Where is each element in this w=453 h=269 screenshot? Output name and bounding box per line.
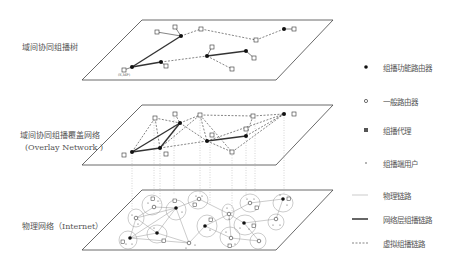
legend-end-user-icon	[365, 162, 367, 164]
physical-layer-label: 物理网络（Internet）	[22, 222, 103, 232]
overlay-layer-sublabel: (Overlay Network )	[25, 143, 103, 153]
legend-network-link-label: 网络层组播链路	[383, 214, 432, 225]
legend-multicast-agent-icon	[364, 128, 368, 132]
legend-physical-link-label: 物理链路	[383, 190, 411, 201]
legend-general-router-label: 一般路由器	[383, 96, 418, 107]
physical-plane	[82, 190, 333, 250]
root-label: (S,MP)	[118, 73, 130, 77]
layer-tree-label: 域间协同组播树	[22, 43, 78, 53]
overlay-layer-label: 域间协同组播覆盖网络	[20, 131, 100, 141]
legend-end-user-label: 组播端用户	[383, 158, 418, 169]
legend-general-router-icon	[364, 99, 367, 102]
legend-multicast-router-label: 组播功能路由器	[383, 62, 432, 73]
legend-multicast-router-icon	[364, 65, 368, 69]
legend-virtual-link-label: 虚拟组播链路	[383, 238, 425, 249]
legend-multicast-agent-label: 组播代理	[383, 125, 411, 136]
